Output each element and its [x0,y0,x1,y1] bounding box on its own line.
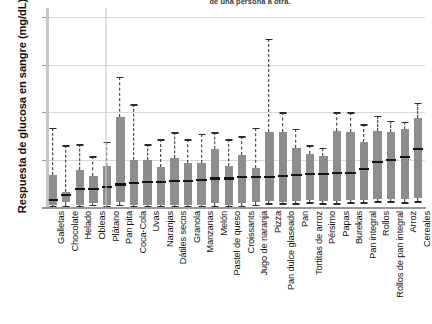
boxplot-item[interactable] [360,8,368,207]
box-iqr [265,132,273,201]
boxplot-item[interactable] [265,8,273,207]
whisker-cap-upper [252,128,259,130]
boxplot-item[interactable] [89,8,97,207]
whisker-cap-upper [130,104,137,106]
whisker-cap-lower [347,202,354,204]
median-line [129,182,139,184]
median-line [183,180,193,182]
whisker-cap-lower [252,205,259,207]
whisker-cap-lower [293,203,300,205]
x-tick-label: Croissants [246,211,256,253]
x-tick-label: Uvas [151,211,161,232]
whisker-cap-upper [76,144,83,146]
boxplot-item[interactable] [333,8,341,207]
whisker-upper [160,139,161,166]
x-tick-label: Rollos de pan integral [395,211,405,298]
boxplot-item[interactable] [130,8,138,207]
boxplot-item[interactable] [401,8,409,207]
boxplot-item[interactable] [373,8,381,207]
boxplot-item[interactable] [143,8,151,207]
boxplot-item[interactable] [62,8,70,207]
x-tick-label: Coca-Cola [138,211,148,254]
x-tick-label: Pan dulce glaseado [286,211,296,290]
whisker-cap-upper [415,103,422,105]
whisker-cap-upper [388,121,395,123]
whisker-cap-upper [90,156,97,158]
boxplot-item[interactable] [197,8,205,207]
box-iqr [360,142,368,200]
boxplot-item[interactable] [116,8,124,207]
boxplot-item[interactable] [225,8,233,207]
median-line [210,177,220,179]
median-line [251,176,261,178]
box-iqr [211,149,219,203]
top-caption: de una persona a otra. [150,0,350,7]
whisker-cap-lower [320,203,327,205]
median-line [142,181,152,183]
whisker-cap-lower [388,201,395,203]
scan-artifact-line [46,8,49,207]
x-tick-label: Pérsimo [327,211,337,244]
whisker-cap-upper [117,77,124,79]
x-tick-label: Burekas [354,211,364,244]
x-tick-label: Helado [83,211,93,240]
whisker-cap-upper [347,112,354,114]
boxplot-item[interactable] [184,8,192,207]
median-line [75,188,85,190]
whisker-cap-lower [361,202,368,204]
median-line [196,179,206,181]
box-iqr [401,129,409,199]
boxplot-item[interactable] [252,8,260,207]
x-tick-label: Manzanas [205,211,215,253]
whisker-upper [377,116,378,131]
boxplot-item[interactable] [279,8,287,207]
box-iqr [252,168,260,202]
whisker-cap-lower [334,203,341,205]
x-tick-label: Obleas [97,211,107,240]
median-line [413,148,423,150]
whisker-cap-upper [306,145,313,147]
box-iqr [225,166,233,205]
boxplot-item[interactable] [76,8,84,207]
boxplot-item[interactable] [170,8,178,207]
boxplot-item[interactable] [306,8,314,207]
whisker-cap-upper [49,128,56,130]
whisker-upper [241,136,242,155]
boxplot-item[interactable] [292,8,300,207]
whisker-cap-upper [144,144,151,146]
box-iqr [306,154,314,200]
x-tick-label: Melón [219,211,229,236]
boxplot-item[interactable] [387,8,395,207]
whisker-cap-upper [266,39,273,41]
x-tick-label: Pan [300,211,310,227]
boxplot-item[interactable] [157,8,165,207]
boxplot-item[interactable] [211,8,219,207]
whisker-upper [214,132,215,149]
median-line [61,194,71,196]
boxplot-item[interactable] [346,8,354,207]
median-line [372,161,382,163]
whisker-upper [228,139,229,165]
median-line [318,173,328,175]
median-line [278,175,288,177]
boxplot-item[interactable] [238,8,246,207]
box-iqr [319,156,327,201]
x-tick-label: Granola [192,211,202,243]
box-iqr [116,117,124,202]
whisker-upper [417,103,418,118]
whisker-cap-upper [158,139,165,141]
x-tick-label: Chocolate [70,211,80,252]
whisker-upper [65,145,66,191]
whisker-cap-lower [401,202,408,204]
boxplot-item[interactable] [49,8,57,207]
whisker-cap-upper [185,139,192,141]
box-iqr [346,132,354,200]
median-line [359,168,369,170]
boxplot-item[interactable] [319,8,327,207]
median-line [305,173,315,175]
plot-area [46,8,425,207]
scan-artifact-line-2 [105,8,107,207]
whisker-upper [79,144,80,170]
boxplot-item[interactable] [414,8,422,207]
